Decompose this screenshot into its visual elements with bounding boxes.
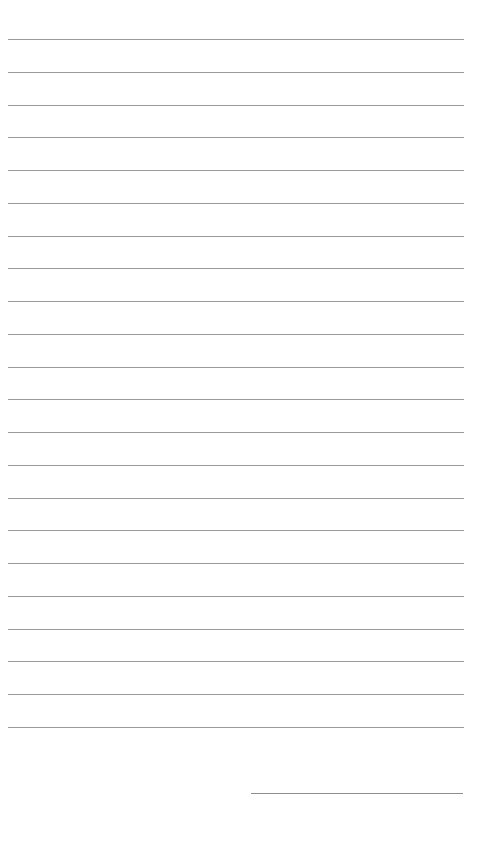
ruled-line [8, 39, 464, 40]
ruled-line [8, 334, 464, 335]
ruled-line [8, 465, 464, 466]
ruled-line [8, 629, 464, 630]
ruled-line [8, 367, 464, 368]
ruled-line [8, 170, 464, 171]
ruled-line [8, 432, 464, 433]
ruled-line [8, 530, 464, 531]
ruled-line [8, 661, 464, 662]
ruled-line [8, 563, 464, 564]
ruled-line [8, 105, 464, 106]
ruled-line [8, 268, 464, 269]
ruled-line [8, 727, 464, 728]
ruled-line [8, 399, 464, 400]
ruled-line [8, 301, 464, 302]
ruled-line [8, 137, 464, 138]
ruled-line [8, 72, 464, 73]
ruled-line [8, 694, 464, 695]
ruled-line [8, 596, 464, 597]
ruled-line [8, 236, 464, 237]
ruled-line [8, 498, 464, 499]
ruled-line [8, 203, 464, 204]
lined-paper-page [0, 0, 500, 857]
signature-line [251, 793, 463, 794]
